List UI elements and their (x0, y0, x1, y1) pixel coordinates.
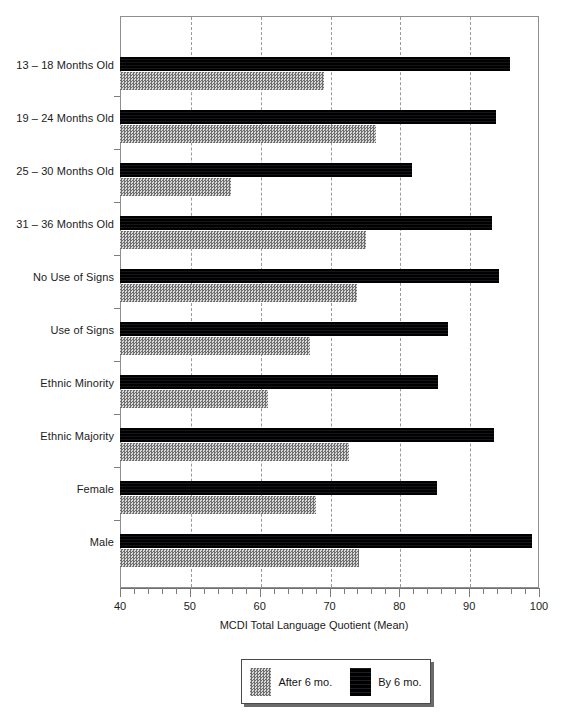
bar-after6mo-2 (120, 178, 231, 196)
x-tick-major-50 (190, 588, 191, 597)
x-tick-minor-56 (232, 588, 233, 594)
x-tick-minor-72 (344, 588, 345, 594)
x-tick-major-90 (469, 588, 470, 597)
bar-by6mo-8 (120, 481, 437, 495)
x-tick-label-40: 40 (114, 600, 126, 612)
y-label-31-36-months-old: 31 – 36 Months Old (16, 218, 114, 230)
y-label-use-of-signs: Use of Signs (50, 324, 114, 336)
x-tick-minor-84 (427, 588, 428, 594)
x-axis-title: MCDI Total Language Quotient (Mean) (220, 619, 409, 631)
x-tick-major-60 (260, 588, 261, 597)
x-tick-label-70: 70 (323, 600, 335, 612)
x-tick-minor-42 (134, 588, 135, 594)
x-tick-minor-64 (288, 588, 289, 594)
legend-label-by-6-mo: By 6 mo. (378, 676, 421, 688)
legend-entry-by-6-mo: By 6 mo. (350, 668, 421, 696)
x-tick-label-100: 100 (530, 600, 548, 612)
x-tick-minor-88 (455, 588, 456, 594)
bar-after6mo-7 (120, 443, 349, 461)
x-tick-minor-82 (413, 588, 414, 594)
legend-label-after-6-mo: After 6 mo. (278, 676, 332, 688)
x-tick-label-50: 50 (184, 600, 196, 612)
bar-after6mo-9 (120, 549, 359, 567)
y-label-no-use-of-signs: No Use of Signs (33, 271, 114, 283)
x-tick-minor-98 (525, 588, 526, 594)
x-tick-minor-76 (371, 588, 372, 594)
y-tick-0 (114, 96, 120, 97)
x-tick-minor-54 (218, 588, 219, 594)
y-tick-3 (114, 255, 120, 256)
bar-chart-figure: 13 – 18 Months Old 19 – 24 Months Old 25… (0, 0, 564, 721)
x-tick-major-40 (120, 588, 121, 597)
x-tick-minor-44 (148, 588, 149, 594)
legend-box: After 6 mo. By 6 mo. (241, 659, 431, 704)
legend-swatch-after-6-mo-icon (250, 668, 271, 696)
bar-by6mo-1 (120, 110, 496, 124)
x-tick-minor-52 (204, 588, 205, 594)
y-tick-6 (114, 414, 120, 415)
bar-by6mo-4 (120, 269, 499, 283)
x-tick-major-80 (399, 588, 400, 597)
y-label-25-30-months-old: 25 – 30 Months Old (16, 165, 114, 177)
x-tick-minor-96 (511, 588, 512, 594)
legend-entry-after-6-mo: After 6 mo. (250, 668, 332, 696)
x-tick-minor-92 (483, 588, 484, 594)
bar-by6mo-5 (120, 322, 448, 336)
bar-after6mo-8 (120, 496, 316, 514)
x-tick-major-100 (539, 588, 540, 597)
y-tick-2 (114, 202, 120, 203)
bar-after6mo-3 (120, 231, 366, 249)
x-tick-minor-48 (176, 588, 177, 594)
x-tick-label-60: 60 (254, 600, 266, 612)
x-tick-minor-86 (441, 588, 442, 594)
y-label-ethnic-majority: Ethnic Majority (40, 430, 114, 442)
y-tick-4 (114, 308, 120, 309)
x-tick-major-70 (330, 588, 331, 597)
y-label-male: Male (90, 536, 114, 548)
x-tick-label-90: 90 (463, 600, 475, 612)
x-tick-label-80: 80 (393, 600, 405, 612)
y-tick-7 (114, 467, 120, 468)
x-tick-minor-58 (246, 588, 247, 594)
bar-by6mo-2 (120, 163, 412, 177)
bar-by6mo-0 (120, 57, 510, 71)
bar-by6mo-3 (120, 216, 492, 230)
bars-layer (120, 16, 539, 588)
bar-after6mo-6 (120, 390, 268, 408)
bar-after6mo-0 (120, 72, 324, 90)
bar-after6mo-5 (120, 337, 310, 355)
x-axis-title-wrapper: MCDI Total Language Quotient (Mean) (0, 619, 564, 631)
x-tick-minor-62 (274, 588, 275, 594)
x-tick-minor-66 (302, 588, 303, 594)
y-label-13-18-months-old: 13 – 18 Months Old (16, 59, 114, 71)
y-tick-1 (114, 149, 120, 150)
bar-after6mo-1 (120, 125, 376, 143)
bar-by6mo-6 (120, 375, 438, 389)
bar-by6mo-7 (120, 428, 494, 442)
x-tick-minor-68 (316, 588, 317, 594)
x-tick-minor-94 (497, 588, 498, 594)
bar-after6mo-4 (120, 284, 357, 302)
y-label-19-24-months-old: 19 – 24 Months Old (16, 112, 114, 124)
x-tick-minor-78 (385, 588, 386, 594)
x-tick-minor-74 (357, 588, 358, 594)
x-tick-minor-46 (162, 588, 163, 594)
y-tick-5 (114, 361, 120, 362)
y-axis-labels: 13 – 18 Months Old 19 – 24 Months Old 25… (0, 16, 114, 588)
y-label-female: Female (77, 483, 114, 495)
bar-by6mo-9 (120, 534, 532, 548)
y-label-ethnic-minority: Ethnic Minority (40, 377, 114, 389)
legend-swatch-by-6-mo-icon (350, 668, 371, 696)
y-tick-8 (114, 520, 120, 521)
